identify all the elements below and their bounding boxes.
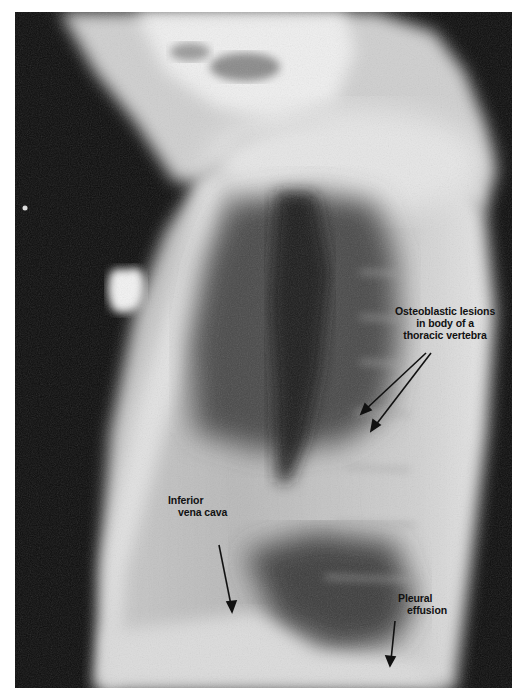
xray-image: Osteoblastic lesions in body of a thorac… (15, 12, 512, 688)
label-line: Inferior (168, 494, 227, 506)
label-osteoblastic-lesions: Osteoblastic lesions in body of a thorac… (395, 305, 495, 341)
label-line: vena cava (168, 506, 227, 518)
label-line: effusion (398, 604, 447, 616)
label-line: in body of a (395, 317, 495, 329)
radiograph-graphic (15, 12, 512, 688)
label-line: thoracic vertebra (395, 329, 495, 341)
label-pleural-effusion: Pleural effusion (398, 592, 447, 616)
label-line: Pleural (398, 592, 447, 604)
label-line: Osteoblastic lesions (395, 305, 495, 317)
label-inferior-vena-cava: Inferior vena cava (168, 494, 227, 518)
